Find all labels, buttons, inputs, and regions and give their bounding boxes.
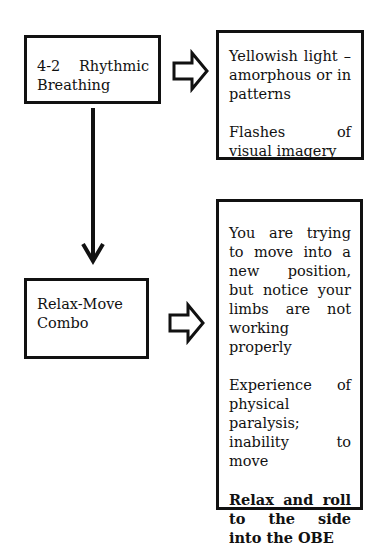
node-relax-move-combo: Relax-Move Combo: [24, 278, 149, 359]
down-arrow-icon: [80, 108, 106, 266]
node-relax-move-effects: You are trying to move into a new positi…: [216, 199, 363, 510]
node-label: Relax-Move Combo: [37, 295, 137, 333]
node-rhythmic-breathing: 4-2 Rhythmic Breathing: [24, 35, 161, 104]
node-label-part: Rhythmic: [79, 57, 149, 76]
effect-text: Experience of physical paralysis; inabil…: [229, 376, 351, 471]
effect-text: Flashes of visual imagery: [229, 123, 351, 161]
node-breathing-effects: Yellowish light – amorphous or in patter…: [216, 30, 364, 160]
node-label-part: Breathing: [37, 76, 149, 95]
effect-text: You are trying to move into a new positi…: [229, 224, 351, 357]
instruction-text: Relax and roll to the side into the OBE: [229, 490, 351, 547]
hollow-arrow-icon: [168, 302, 206, 344]
node-label-part: 4-2: [37, 57, 60, 76]
hollow-arrow-icon: [172, 50, 210, 92]
effect-text: Yellowish light – amorphous or in patter…: [229, 47, 351, 104]
